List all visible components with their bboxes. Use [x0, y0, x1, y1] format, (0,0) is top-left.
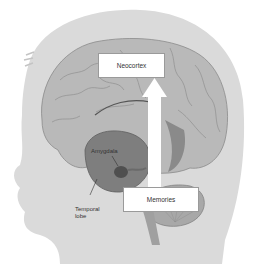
- neocortex-box: Neocortex: [98, 53, 165, 78]
- brain-diagram: Neocortex Memories Amygdala Temporal lob…: [0, 0, 253, 264]
- temporal-lobe: [85, 131, 150, 192]
- brain-illustration: [0, 0, 253, 264]
- memories-label: Memories: [147, 196, 176, 203]
- temporal-lobe-label: Temporal lobe: [75, 206, 100, 220]
- amygdala-text: Amygdala: [91, 148, 118, 154]
- amygdala: [114, 166, 128, 178]
- temporal-lobe-text-2: lobe: [75, 213, 100, 220]
- amygdala-label: Amygdala: [91, 148, 118, 155]
- neocortex-label: Neocortex: [117, 62, 147, 69]
- memories-box: Memories: [123, 187, 199, 212]
- temporal-lobe-text-1: Temporal: [75, 206, 100, 213]
